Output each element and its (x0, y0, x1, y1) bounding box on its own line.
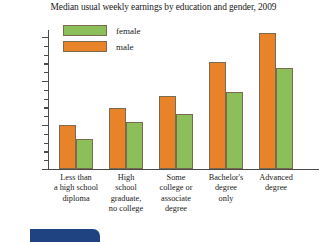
bar-female (226, 92, 243, 170)
y-axis-minor-tick (44, 99, 48, 100)
y-axis-major-tick (42, 81, 49, 82)
y-axis-minor-tick (44, 72, 48, 73)
bar-female (176, 114, 193, 170)
y-axis-minor-tick (44, 160, 48, 161)
y-axis-minor-tick (44, 63, 48, 64)
bar-female (76, 139, 93, 170)
category-label-line: only (193, 194, 259, 204)
page-decoration-tab (30, 229, 100, 242)
plot-area (48, 30, 319, 170)
category-label-line: degree (143, 204, 209, 214)
y-axis-line (48, 30, 49, 170)
y-axis-minor-tick (44, 143, 48, 144)
category-label-line: Advanced (243, 173, 309, 183)
y-axis-minor-tick (44, 151, 48, 152)
bar-male (209, 62, 226, 170)
y-axis-minor-tick (44, 116, 48, 117)
y-axis-minor-tick (44, 55, 48, 56)
y-axis-minor-tick (44, 134, 48, 135)
y-axis-major-tick (42, 169, 49, 170)
x-axis-category-label: Advanceddegree (243, 173, 309, 194)
y-axis-major-tick (42, 125, 49, 126)
y-axis-minor-tick (44, 90, 48, 91)
chart-title: Median usual weekly earnings by educatio… (0, 2, 327, 12)
y-axis-minor-tick (44, 107, 48, 108)
bar-female (276, 68, 293, 169)
bar-chart: Median usual weekly earnings by educatio… (0, 0, 327, 242)
bar-female (126, 122, 143, 170)
category-label-line: degree (243, 183, 309, 193)
bar-male (59, 125, 76, 169)
bar-male (259, 33, 276, 170)
bar-male (159, 96, 176, 169)
y-axis-major-tick (42, 37, 49, 38)
y-axis-minor-tick (44, 46, 48, 47)
bar-male (109, 108, 126, 170)
